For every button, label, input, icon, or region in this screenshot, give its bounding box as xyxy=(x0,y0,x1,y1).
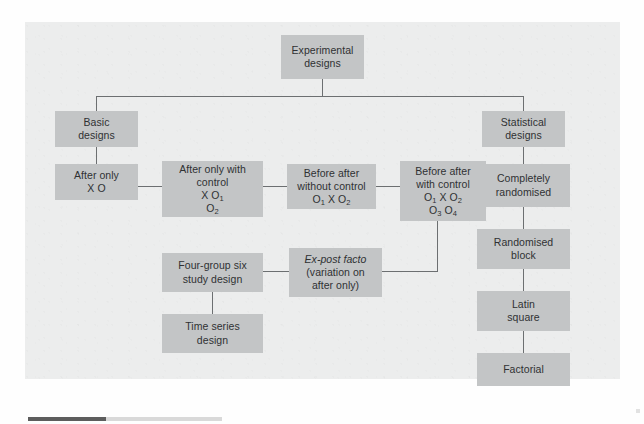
node-label: Latin square xyxy=(507,298,539,324)
node-statistical-designs[interactable]: Statistical designs xyxy=(482,111,565,147)
connector-basic-to-after-only xyxy=(96,147,97,164)
node-label: Randomised block xyxy=(494,236,553,262)
connector-after-only-to-after-only-control xyxy=(137,186,162,187)
node-randomised-block[interactable]: Randomised block xyxy=(477,229,570,269)
node-label: Ex-post facto(variation on after only) xyxy=(305,253,367,293)
node-ex-post-facto[interactable]: Ex-post facto(variation on after only) xyxy=(289,248,382,297)
node-label: Statistical designs xyxy=(501,116,546,142)
connector-ex-post-to-four-group xyxy=(262,271,289,272)
connector-four-group-to-time-series xyxy=(212,292,213,314)
connector-after-control-to-before-without xyxy=(262,186,287,187)
node-before-after-without-control[interactable]: Before afterwithout controlO1 X O2 xyxy=(287,164,376,209)
connector-to-basic xyxy=(96,96,97,111)
node-label: Time series design xyxy=(185,320,239,346)
connector-before-with-down xyxy=(437,221,438,271)
connector-completely-to-block xyxy=(523,207,524,229)
ex-post-facto-italic: Ex-post facto xyxy=(305,253,367,265)
node-label: Experimental designs xyxy=(292,44,354,70)
node-experimental-designs[interactable]: Experimental designs xyxy=(281,35,364,79)
connector-root-down xyxy=(322,79,323,96)
node-label: Basic designs xyxy=(78,116,115,142)
connector-to-statistical xyxy=(523,96,524,111)
node-label: After onlyX O xyxy=(74,169,119,195)
node-after-only-with-control[interactable]: After only withcontrolX O1O2 xyxy=(162,161,263,217)
node-after-only[interactable]: After onlyX O xyxy=(55,164,138,200)
node-label: Factorial xyxy=(503,363,544,376)
node-label: After only withcontrolX O1O2 xyxy=(179,163,246,216)
page-canvas: Experimental designs Basic designs Stati… xyxy=(0,0,644,424)
node-time-series-design[interactable]: Time series design xyxy=(162,314,263,353)
footer-rule-dark xyxy=(28,417,106,421)
node-label: Before afterwithout controlO1 X O2 xyxy=(297,167,365,207)
node-label: Four-group six study design xyxy=(178,259,246,285)
connector-block-to-latin xyxy=(523,269,524,291)
connector-statistical-to-completely xyxy=(523,147,524,164)
page-edge-mark xyxy=(636,409,640,413)
footer-rule-light xyxy=(106,417,222,421)
connector-top-split xyxy=(96,96,523,97)
node-basic-designs[interactable]: Basic designs xyxy=(55,111,138,147)
node-label: Completely randomised xyxy=(496,172,551,198)
connector-latin-to-factorial xyxy=(523,331,524,353)
node-before-after-with-control[interactable]: Before afterwith controlO1 X O2O3 O4 xyxy=(400,161,486,221)
node-label: Before afterwith controlO1 X O2O3 O4 xyxy=(415,165,470,218)
node-factorial[interactable]: Factorial xyxy=(477,353,570,386)
node-latin-square[interactable]: Latin square xyxy=(477,291,570,331)
connector-before-without-to-before-with xyxy=(375,186,400,187)
node-completely-randomised[interactable]: Completely randomised xyxy=(477,164,570,207)
node-four-group-six-study-design[interactable]: Four-group six study design xyxy=(162,253,263,292)
